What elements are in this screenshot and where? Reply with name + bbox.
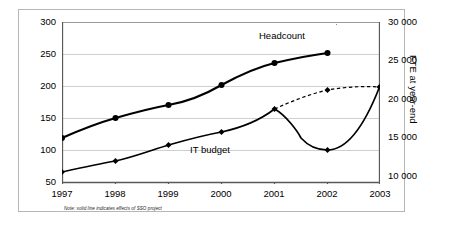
y-right-tick-30000: 30 000 xyxy=(388,17,417,27)
data-point xyxy=(113,158,119,164)
data-point xyxy=(219,129,225,135)
data-point xyxy=(62,169,65,175)
x-tick-1998: 1998 xyxy=(93,188,137,199)
series-headcount-line xyxy=(62,53,328,138)
series-label-headcount: Headcount xyxy=(259,30,305,41)
series-label-it-budget: IT budget xyxy=(190,144,230,155)
series-headcount-markers xyxy=(62,50,331,141)
chart-canvas xyxy=(62,22,380,184)
y-left-tick-250: 250 xyxy=(40,49,56,59)
y-left-tick-100: 100 xyxy=(40,145,56,155)
data-point xyxy=(325,50,331,56)
y-left-tick-200: 200 xyxy=(40,81,56,91)
chart-footnote: Note: solid line indicates effects of SS… xyxy=(64,206,162,211)
series-itbudget-dashed-markers xyxy=(325,87,331,93)
y-left-tick-50: 50 xyxy=(45,177,56,187)
data-point xyxy=(325,147,331,153)
data-point xyxy=(166,102,172,108)
y-left-tick-300: 300 xyxy=(40,17,56,27)
y-right-tick-15000: 15 000 xyxy=(388,132,417,142)
data-point xyxy=(113,115,119,121)
y-right-tick-25000: 25 000 xyxy=(388,55,417,65)
gridlines xyxy=(62,55,380,151)
x-tick-2000: 2000 xyxy=(199,188,243,199)
series-itbudget-line xyxy=(62,87,380,172)
x-tick-2002: 2002 xyxy=(305,188,349,199)
y-right-tick-10000: 10 000 xyxy=(388,171,417,181)
x-tick-2001: 2001 xyxy=(252,188,296,199)
y-right-tick-20000: 20 000 xyxy=(388,94,417,104)
data-point xyxy=(166,142,172,148)
x-tick-1997: 1997 xyxy=(40,188,84,199)
y-axis-right-title: FTE at year-end xyxy=(408,55,419,124)
data-point xyxy=(219,82,225,88)
data-point xyxy=(272,60,278,66)
y-left-tick-150: 150 xyxy=(40,113,56,123)
x-tick-2003: 2003 xyxy=(358,188,402,199)
x-tick-1999: 1999 xyxy=(146,188,190,199)
chart-root: IT budget (€ million) FTE at year-end 30… xyxy=(0,0,454,232)
plot-area: 300 250 200 150 100 50 30 000 25 000 20 … xyxy=(62,22,380,184)
data-point xyxy=(325,87,331,93)
